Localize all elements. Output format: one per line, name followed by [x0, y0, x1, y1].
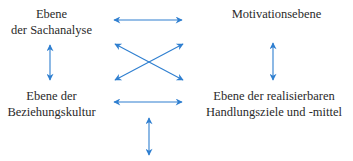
arrows-layer — [0, 0, 353, 161]
